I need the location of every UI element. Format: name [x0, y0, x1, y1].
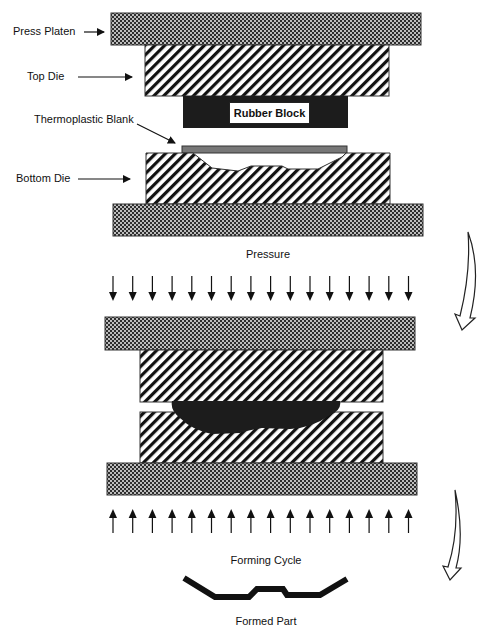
stage-closed-tool: [105, 317, 417, 495]
pressure-arrow-down: [306, 276, 314, 301]
pressure-arrow-up: [109, 509, 117, 533]
process-flow-arrow-1: [455, 232, 476, 330]
pressure-arrow-down: [148, 276, 156, 301]
rubber-block-label: Rubber Block: [229, 102, 310, 124]
pressure-arrow-up: [188, 509, 196, 533]
pressure-label: Pressure: [246, 248, 290, 260]
formed-part-shape: [184, 578, 347, 597]
press-platen-label: Press Platen: [13, 25, 75, 37]
pressure-arrow-down: [385, 276, 393, 301]
thermoplastic-blank-label: Thermoplastic Blank: [34, 113, 134, 125]
bottom-press-platen: [113, 204, 423, 236]
forming-cycle-label: Forming Cycle: [231, 554, 302, 566]
pressure-arrow-up: [365, 509, 373, 533]
bottom-press-platen-closed: [107, 463, 417, 495]
pressure-arrow-down: [345, 276, 353, 301]
pressure-arrow-down: [129, 276, 137, 301]
pressure-arrow-down: [267, 276, 275, 301]
pressure-arrow-up: [208, 509, 216, 533]
pressure-arrows-down: [109, 276, 413, 301]
top-die: [145, 45, 389, 96]
figure-caption-fragment: [6, 624, 23, 634]
rubber-forming-diagram: [0, 0, 492, 637]
process-flow-arrow-2: [443, 490, 461, 580]
pressure-arrow-up: [286, 509, 294, 533]
pressure-arrow-up: [385, 509, 393, 533]
pressure-arrow-down: [208, 276, 216, 301]
pressure-arrow-down: [109, 276, 117, 301]
pressure-arrows-up: [109, 509, 413, 533]
pressure-arrow-up: [247, 509, 255, 533]
thermoplastic-blank: [182, 146, 347, 153]
pressure-arrow-up: [345, 509, 353, 533]
top-die-closed: [140, 350, 383, 402]
pressure-arrow-up: [129, 509, 137, 533]
pressure-arrow-down: [286, 276, 294, 301]
pressure-arrow-up: [405, 509, 413, 533]
bottom-die: [146, 153, 390, 204]
pressure-arrow-up: [227, 509, 235, 533]
pressure-arrow-down: [365, 276, 373, 301]
pressure-arrow-down: [326, 276, 334, 301]
top-press-platen: [111, 13, 421, 45]
pressure-arrow-down: [168, 276, 176, 301]
pressure-arrow-up: [267, 509, 275, 533]
pressure-arrow-up: [168, 509, 176, 533]
pressure-arrow-up: [306, 509, 314, 533]
pressure-arrow-down: [247, 276, 255, 301]
pressure-arrow-down: [227, 276, 235, 301]
top-press-platen-closed: [105, 317, 415, 350]
pressure-arrow-up: [148, 509, 156, 533]
pressure-arrow-up: [326, 509, 334, 533]
bottom-die-label: Bottom Die: [16, 172, 70, 184]
formed-part-label: Formed Part: [235, 615, 296, 627]
top-die-label: Top Die: [27, 70, 64, 82]
pressure-arrow-down: [405, 276, 413, 301]
pressure-arrow-down: [188, 276, 196, 301]
thermoplastic-blank-arrow: [137, 124, 175, 143]
